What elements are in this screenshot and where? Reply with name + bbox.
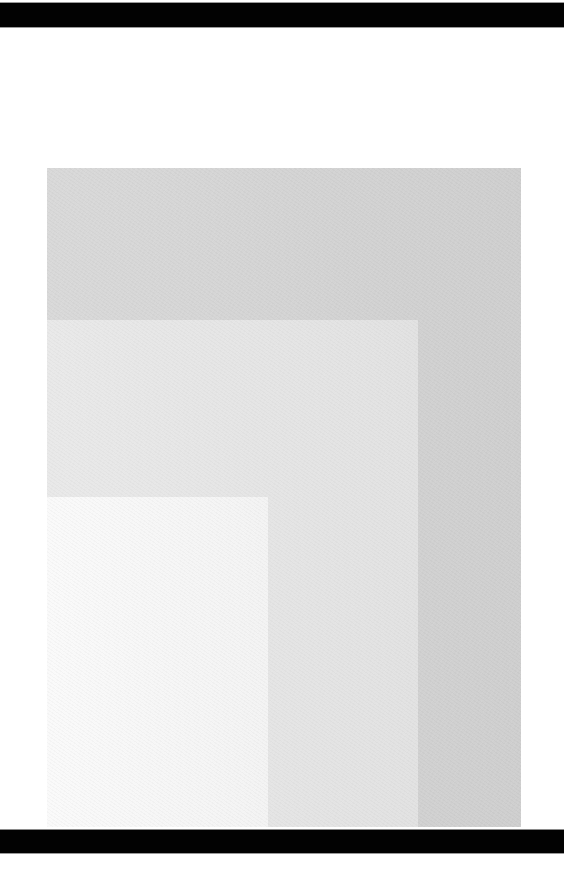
bottom-black-bar	[0, 829, 564, 854]
top-black-bar	[0, 2, 564, 28]
inner-white-paper	[47, 497, 268, 827]
